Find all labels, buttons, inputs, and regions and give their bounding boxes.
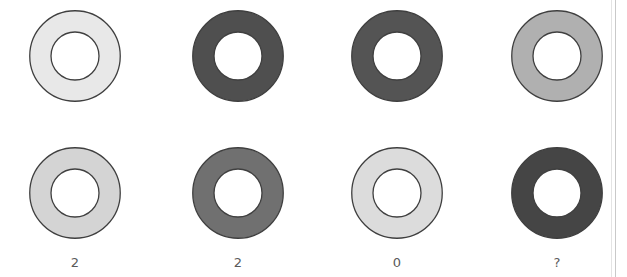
ring-cell-r2c4[interactable] [511,147,603,239]
annulus-icon [351,10,443,102]
page-rule-secondary [611,0,612,277]
ring-cell-r1c3[interactable] [351,10,443,102]
ring-inner-hole [51,169,99,217]
annulus-icon [29,10,121,102]
annulus-icon [192,147,284,239]
label-col-1: 2 [35,256,115,270]
ring-inner-hole [373,32,421,80]
annulus-icon [29,147,121,239]
annulus-icon [511,147,603,239]
ring-cell-r2c1[interactable] [29,147,121,239]
ring-cell-r2c2[interactable] [192,147,284,239]
annulus-icon [351,147,443,239]
ring-cell-r1c4[interactable] [511,10,603,102]
label-col-2: 2 [198,256,278,270]
puzzle-canvas: 220? [0,0,627,277]
annulus-icon [192,10,284,102]
ring-grid: 220? [0,0,627,277]
page-rule [615,0,616,277]
ring-inner-hole [214,169,262,217]
ring-inner-hole [533,169,581,217]
label-col-4: ? [517,256,597,270]
label-col-3: 0 [357,256,437,270]
ring-inner-hole [533,32,581,80]
ring-cell-r1c2[interactable] [192,10,284,102]
ring-inner-hole [214,32,262,80]
ring-inner-hole [51,32,99,80]
annulus-icon [511,10,603,102]
ring-cell-r1c1[interactable] [29,10,121,102]
ring-inner-hole [373,169,421,217]
ring-cell-r2c3[interactable] [351,147,443,239]
